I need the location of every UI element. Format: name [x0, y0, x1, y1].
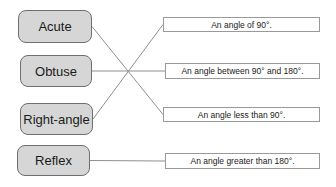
- term-label-right-angle: Right-angle: [23, 112, 90, 127]
- definition-box-angle-of-90: An angle of 90°.: [163, 17, 320, 32]
- definition-label-between-90-and-180: An angle between 90° and 180°.: [181, 66, 303, 76]
- matching-diagram: Acute Obtuse Right-angle Reflex An angle…: [0, 0, 336, 187]
- term-box-reflex: Reflex: [17, 145, 90, 176]
- term-box-right-angle: Right-angle: [20, 103, 93, 135]
- term-box-obtuse: Obtuse: [20, 55, 92, 87]
- term-label-obtuse: Obtuse: [35, 64, 77, 79]
- definition-box-greater-than-180: An angle greater than 180°.: [165, 153, 320, 169]
- term-label-acute: Acute: [38, 19, 71, 34]
- definition-label-less-than-90: An angle less than 90°.: [198, 110, 286, 120]
- definition-box-less-than-90: An angle less than 90°.: [163, 107, 320, 122]
- term-box-acute: Acute: [18, 10, 92, 43]
- definition-label-angle-of-90: An angle of 90°.: [211, 20, 272, 30]
- term-label-reflex: Reflex: [35, 153, 72, 168]
- definition-label-greater-than-180: An angle greater than 180°.: [190, 156, 294, 166]
- definition-box-between-90-and-180: An angle between 90° and 180°.: [165, 63, 320, 79]
